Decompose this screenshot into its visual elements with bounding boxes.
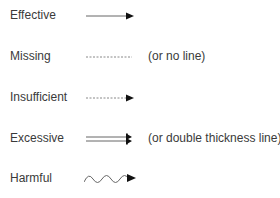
wavy-arrow-icon	[84, 169, 144, 189]
legend-item-missing: Missing (or no line)	[0, 47, 280, 67]
legend-note: (or double thickness line)	[148, 131, 280, 145]
dashed-line-icon	[84, 47, 144, 67]
double-arrow-icon	[84, 129, 144, 149]
legend-label: Insufficient	[10, 90, 67, 104]
legend-label: Missing	[10, 49, 51, 63]
legend-label: Excessive	[10, 131, 64, 145]
solid-arrow-icon	[84, 6, 144, 26]
legend-label: Effective	[10, 8, 56, 22]
legend-item-insufficient: Insufficient	[0, 88, 280, 108]
legend-item-excessive: Excessive (or double thickness line)	[0, 129, 280, 149]
dashed-arrow-icon	[84, 88, 144, 108]
legend-note: (or no line)	[148, 49, 205, 63]
legend-label: Harmful	[10, 171, 52, 185]
legend-item-effective: Effective	[0, 6, 280, 26]
legend-item-harmful: Harmful	[0, 169, 280, 189]
